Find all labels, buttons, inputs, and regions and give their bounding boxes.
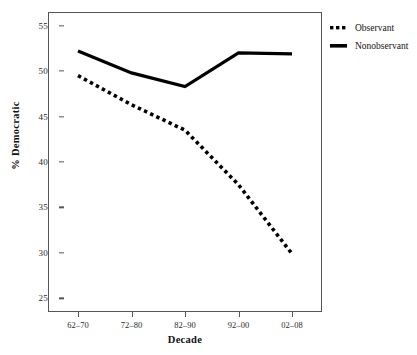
legend-item-nonobservant: Nonobservant [329,38,417,53]
x-tick-mark [132,312,133,317]
legend-label-observant: Observant [355,23,394,33]
chart-container: 25303540455055 62–7072–8082–9092–0002–08… [0,0,417,355]
y-axis-title: % Democratic [10,76,21,196]
legend-label-nonobservant: Nonobservant [355,41,408,51]
x-tick-label: 82–90 [155,320,215,330]
x-tick-mark [185,312,186,317]
legend-item-observant: Observant [329,20,417,35]
x-axis-title: Decade [48,334,322,345]
x-tick-label: 62–70 [48,320,108,330]
x-tick-mark [239,312,240,317]
x-tick-label: 02–08 [262,320,322,330]
x-tick-label: 92–00 [209,320,269,330]
x-tick-mark [292,312,293,317]
dotted-line-icon [329,22,351,33]
solid-line-icon [329,40,351,51]
x-tick-label: 72–80 [102,320,162,330]
legend: Observant Nonobservant [329,20,417,56]
x-tick-mark [78,312,79,317]
